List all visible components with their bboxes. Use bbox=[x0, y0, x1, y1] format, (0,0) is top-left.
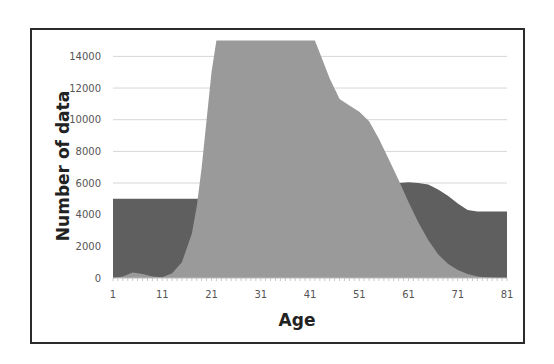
y-tick-label: 4000 bbox=[76, 209, 101, 220]
x-tick-label: 1 bbox=[110, 289, 116, 300]
x-axis-ticks: 11121314151617181 bbox=[110, 278, 514, 300]
y-tick-label: 2000 bbox=[76, 241, 101, 252]
x-axis-title: Age bbox=[279, 310, 316, 330]
y-axis-ticks: 02000400060008000100001200014000 bbox=[69, 51, 101, 284]
x-tick-label: 31 bbox=[254, 289, 267, 300]
x-tick-label: 11 bbox=[156, 289, 169, 300]
x-tick-label: 71 bbox=[451, 289, 464, 300]
x-tick-label: 41 bbox=[304, 289, 317, 300]
y-tick-label: 10000 bbox=[69, 114, 101, 125]
y-tick-label: 0 bbox=[95, 273, 101, 284]
x-tick-label: 81 bbox=[501, 289, 514, 300]
x-tick-label: 51 bbox=[353, 289, 366, 300]
y-tick-label: 12000 bbox=[69, 83, 101, 94]
area-chart: 02000400060008000100001200014000 1112131… bbox=[0, 0, 554, 364]
y-axis-title: Number of data bbox=[53, 91, 73, 241]
y-tick-label: 14000 bbox=[69, 51, 101, 62]
y-tick-label: 6000 bbox=[76, 178, 101, 189]
y-tick-label: 8000 bbox=[76, 146, 101, 157]
x-tick-label: 21 bbox=[205, 289, 218, 300]
x-tick-label: 61 bbox=[402, 289, 415, 300]
